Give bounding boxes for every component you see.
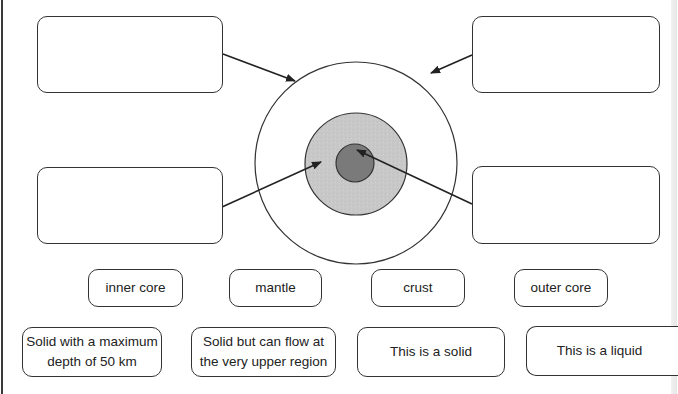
description-chip-4[interactable]: This is a liquid [526, 326, 678, 376]
arrow-top-right [431, 55, 472, 73]
label-chip-outer-core[interactable]: outer core [514, 269, 608, 307]
description-line-1: This is a liquid [557, 341, 643, 361]
arrow-top-left [223, 54, 295, 81]
description-chip-3[interactable]: This is a solid [357, 327, 505, 377]
answer-box-top-right[interactable] [472, 16, 660, 93]
label-chip-crust[interactable]: crust [371, 269, 465, 307]
answer-box-top-left[interactable] [37, 16, 223, 93]
label-text: outer core [531, 278, 592, 298]
description-line-1: This is a solid [390, 342, 472, 362]
description-line-2: depth of 50 km [47, 352, 136, 372]
label-chip-inner-core[interactable]: inner core [88, 269, 183, 307]
label-text: crust [403, 278, 432, 298]
description-chip-1[interactable]: Solid with a maximum depth of 50 km [22, 327, 162, 377]
description-chip-2[interactable]: Solid but can flow at the very upper reg… [191, 327, 336, 377]
description-line-1: Solid but can flow at [203, 332, 324, 352]
description-line-1: Solid with a maximum [26, 332, 157, 352]
center-layer-circle [336, 144, 374, 182]
description-line-2: the very upper region [200, 352, 328, 372]
label-text: inner core [105, 278, 165, 298]
label-text: mantle [255, 278, 296, 298]
answer-box-bottom-left[interactable] [37, 167, 223, 244]
label-chip-mantle[interactable]: mantle [229, 269, 322, 307]
answer-box-bottom-right[interactable] [472, 166, 660, 244]
